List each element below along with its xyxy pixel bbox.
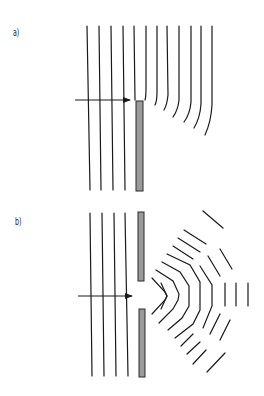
barrier-b-bottom <box>139 309 145 377</box>
diffraction-diagram <box>0 0 264 396</box>
incident-plane-waves-b <box>90 213 128 376</box>
panel-b <box>78 211 248 377</box>
incident-plane-waves <box>87 26 135 190</box>
barrier-b-top <box>138 212 144 281</box>
circular-diffracted-waves <box>152 211 248 372</box>
panel-a <box>75 26 212 191</box>
barrier-a <box>136 101 143 191</box>
diffracted-curved-waves <box>145 26 212 135</box>
